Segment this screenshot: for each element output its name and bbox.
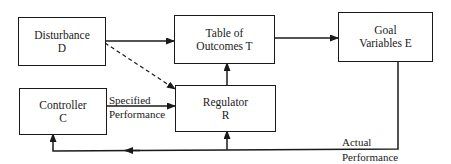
disturbance-symbol: D [58, 42, 66, 55]
specified-label-line2: Performance [109, 108, 165, 120]
controller-box: Controller C [19, 88, 107, 135]
controller-symbol: C [59, 112, 67, 125]
disturbance-box: Disturbance D [18, 17, 106, 66]
goal-symbol: Variables E [359, 37, 412, 50]
table-label: Table of [206, 27, 244, 40]
regulator-symbol: R [222, 109, 230, 122]
table-of-outcomes-box: Table of Outcomes T [174, 15, 275, 64]
actual-label-line2: Performance [342, 151, 398, 163]
regulator-box: Regulator R [175, 85, 276, 132]
table-symbol: Outcomes T [196, 40, 252, 53]
controller-label: Controller [39, 99, 86, 112]
specified-label-line1: Specified [109, 94, 151, 106]
disturbance-label: Disturbance [34, 29, 90, 42]
goal-variables-box: Goal Variables E [338, 12, 433, 62]
regulator-label: Regulator [203, 96, 248, 109]
actual-label-line1: Actual [342, 136, 371, 148]
goal-label: Goal [374, 24, 396, 37]
